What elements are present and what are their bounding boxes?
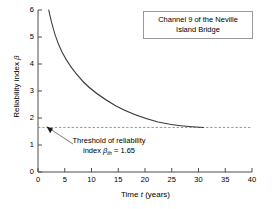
x-axis-title: Time t (years) [38,190,253,199]
x-tick-label-5: 5 [55,176,75,184]
y-tick-label-0: 0 [22,168,34,176]
x-axis-title-prefix: Time [121,190,141,199]
y-axis-title-prefix: Reliability index [12,60,21,118]
y-tick-label-3: 3 [22,87,34,95]
x-axis-title-suffix: (years) [143,190,170,199]
x-tick-label-30: 30 [189,176,209,184]
x-tick-label-15: 15 [108,176,128,184]
threshold-annotation-subscript: th [107,150,112,156]
y-axis-title-symbol: β [12,55,21,60]
chart-title-line-1: Channel 9 of the Neville [146,15,250,25]
threshold-annotation-line-1: Threshold of reliability [56,136,162,146]
y-axis-title: Reliability index β [12,7,21,167]
x-tick-label-35: 35 [215,176,235,184]
threshold-annotation-value: = 1.65 [112,146,135,155]
x-tick-label-40: 40 [242,176,262,184]
y-tick-label-6: 6 [22,6,34,14]
x-axis-ticks [38,168,252,172]
chart-title-line-2: Island Bridge [146,25,250,35]
threshold-annotation: Threshold of reliability index βth = 1.6… [56,136,162,156]
reliability-index-chart-figure: 0 1 2 3 4 5 6 0 5 10 15 20 25 30 35 40 T… [0,0,273,209]
y-tick-label-4: 4 [22,60,34,68]
x-tick-label-25: 25 [162,176,182,184]
x-tick-label-0: 0 [28,176,48,184]
y-tick-label-1: 1 [22,141,34,149]
y-tick-label-5: 5 [22,33,34,41]
chart-title-box: Channel 9 of the Neville Island Bridge [143,11,253,39]
threshold-annotation-prefix: index [83,146,103,155]
threshold-annotation-line-2: index βth = 1.65 [56,146,162,156]
x-tick-label-20: 20 [135,176,155,184]
x-tick-label-10: 10 [82,176,102,184]
y-axis-ticks [38,10,42,172]
y-tick-label-2: 2 [22,114,34,122]
